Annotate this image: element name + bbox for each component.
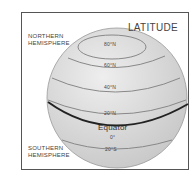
lat-20s: 20°S: [105, 146, 117, 153]
lat-60n: 60°N: [104, 62, 116, 69]
title: LATITUDE: [128, 22, 178, 33]
equator-label: Equator: [98, 124, 127, 131]
lat-40n: 40°N: [104, 84, 116, 91]
northern-hemisphere-label: NORTHERN HEMISPHERE: [28, 33, 70, 47]
lat-0: 0°: [110, 134, 115, 141]
lat-20n: 20°N: [104, 110, 116, 117]
label-line: HEMISPHERE: [28, 40, 70, 47]
label-line: HEMISPHERE: [28, 152, 70, 159]
southern-hemisphere-label: SOUTHERN HEMISPHERE: [28, 145, 70, 159]
label-line: NORTHERN: [28, 33, 70, 40]
label-line: SOUTHERN: [28, 145, 70, 152]
lat-80n: 80°N: [104, 41, 116, 48]
